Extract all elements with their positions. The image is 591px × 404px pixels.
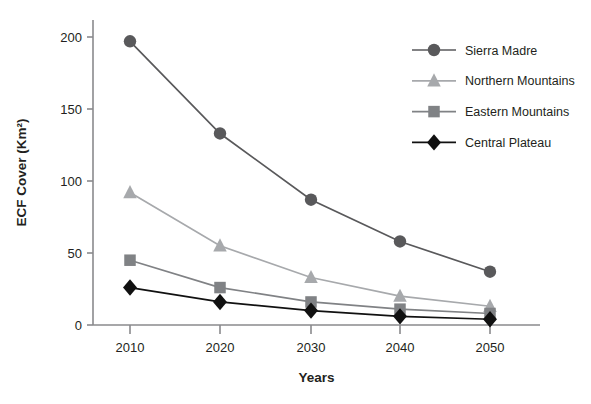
legend-label: Eastern Mountains xyxy=(465,105,569,119)
data-point xyxy=(124,254,136,266)
line-chart: 05010015020020102020203020402050ECF Cove… xyxy=(0,0,591,404)
x-tick-label: 2040 xyxy=(386,340,415,355)
legend-label: Northern Mountains xyxy=(465,74,575,88)
data-point xyxy=(123,279,137,295)
series-line xyxy=(130,193,490,307)
y-axis-title: ECF Cover (Km²) xyxy=(14,118,29,226)
y-tick-label: 50 xyxy=(68,246,82,261)
y-tick-label: 0 xyxy=(75,318,82,333)
legend-item-central-plateau: Central Plateau xyxy=(412,134,551,150)
x-axis-title: Years xyxy=(298,370,334,385)
legend-marker-icon xyxy=(428,44,440,56)
legend-item-eastern-mountains: Eastern Mountains xyxy=(412,105,569,119)
data-point xyxy=(124,35,136,47)
legend-marker-icon xyxy=(428,106,440,118)
y-tick-label: 100 xyxy=(60,174,82,189)
x-tick-label: 2030 xyxy=(297,340,326,355)
x-tick-label: 2010 xyxy=(116,340,145,355)
legend-item-sierra-madre: Sierra Madre xyxy=(412,44,537,58)
x-tick-label: 2020 xyxy=(206,340,235,355)
legend-item-northern-mountains: Northern Mountains xyxy=(412,73,575,88)
y-tick-label: 150 xyxy=(60,102,82,117)
data-point xyxy=(305,194,317,206)
x-tick-label: 2050 xyxy=(476,340,505,355)
y-tick-label: 200 xyxy=(60,30,82,45)
legend-label: Sierra Madre xyxy=(465,44,537,58)
legend-marker-icon xyxy=(427,73,441,86)
data-point xyxy=(213,238,227,251)
data-point xyxy=(214,282,226,294)
legend-label: Central Plateau xyxy=(465,136,551,150)
data-point xyxy=(394,235,406,247)
data-point xyxy=(213,294,227,310)
data-point xyxy=(484,266,496,278)
series-line xyxy=(130,41,490,271)
data-point xyxy=(214,127,226,139)
chart-canvas: 05010015020020102020203020402050ECF Cove… xyxy=(0,0,591,404)
data-point xyxy=(123,185,137,198)
legend-marker-icon xyxy=(427,134,441,150)
series-sierra-madre xyxy=(124,35,496,278)
